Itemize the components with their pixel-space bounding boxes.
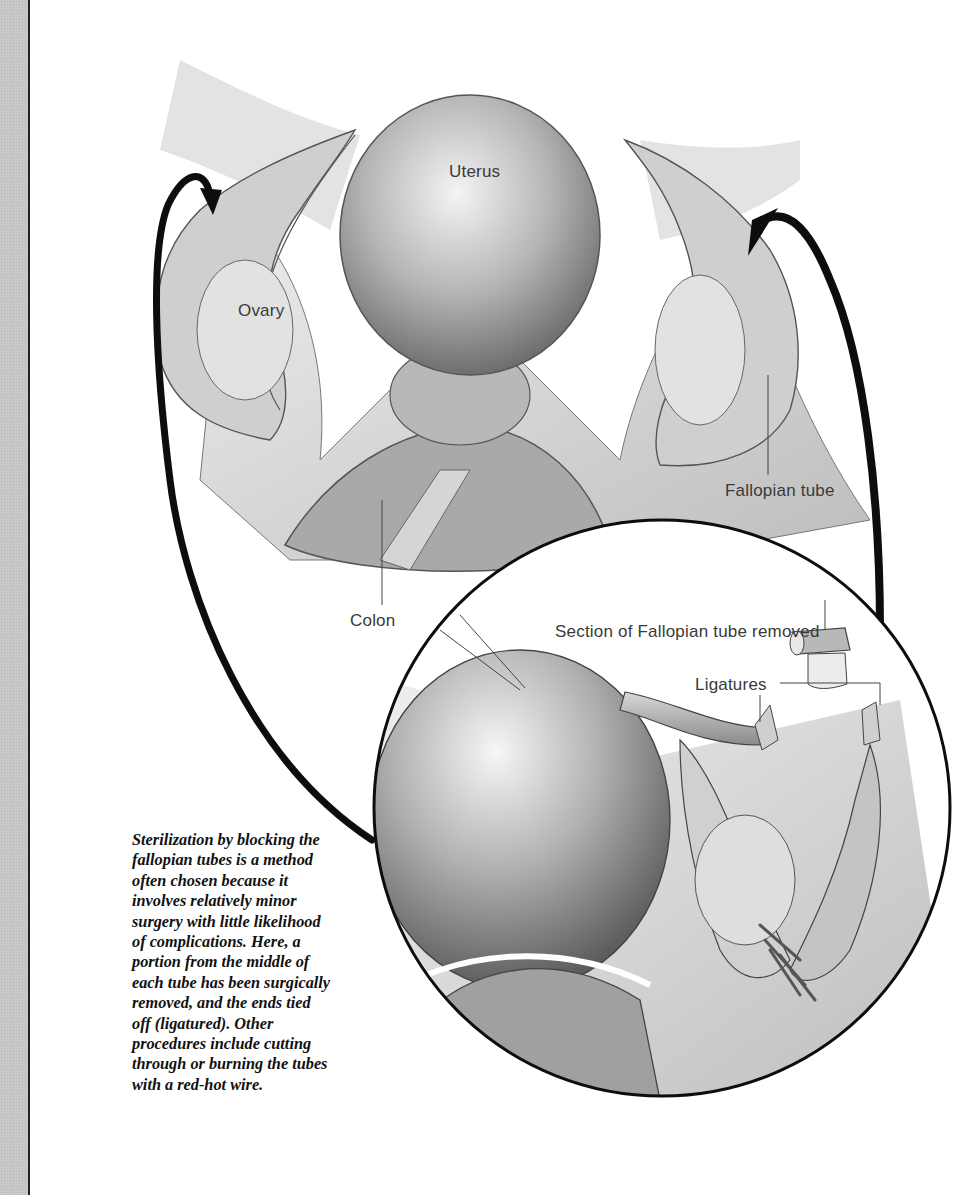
main-anatomy-view bbox=[156, 60, 870, 605]
label-ligatures: Ligatures bbox=[695, 675, 767, 695]
caption-line: each tube has been surgically bbox=[132, 973, 372, 993]
label-colon: Colon bbox=[350, 611, 395, 631]
label-fallopian-tube: Fallopian tube bbox=[725, 481, 835, 501]
caption-line: fallopian tubes is a method bbox=[132, 850, 372, 870]
figure-caption: Sterilization by blocking the fallopian … bbox=[132, 830, 372, 1095]
caption-line: Sterilization by blocking the bbox=[132, 830, 372, 850]
caption-line: portion from the middle of bbox=[132, 952, 372, 972]
magnified-inset bbox=[370, 520, 960, 1100]
caption-line: removed, and the ends tied bbox=[132, 993, 372, 1013]
label-ovary: Ovary bbox=[238, 301, 284, 321]
label-section-removed: Section of Fallopian tube removed bbox=[555, 622, 820, 642]
caption-line: procedures include cutting bbox=[132, 1034, 372, 1054]
caption-line: involves relatively minor bbox=[132, 891, 372, 911]
label-uterus: Uterus bbox=[449, 162, 500, 182]
caption-line: through or burning the tubes bbox=[132, 1054, 372, 1074]
caption-line: with a red-hot wire. bbox=[132, 1075, 372, 1095]
caption-line: of complications. Here, a bbox=[132, 932, 372, 952]
caption-line: often chosen because it bbox=[132, 871, 372, 891]
caption-line: off (ligatured). Other bbox=[132, 1014, 372, 1034]
caption-line: surgery with little likelihood bbox=[132, 912, 372, 932]
